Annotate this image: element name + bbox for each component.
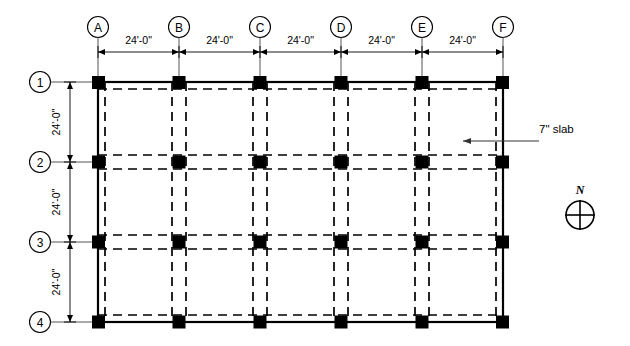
slab-note-label: 7" slab	[539, 123, 574, 135]
dimension-B-C: 24'-0"	[179, 34, 260, 58]
column-grid-bubbles: A B C D E	[88, 17, 514, 83]
dimension-arrow-left-A-B	[98, 49, 105, 55]
column-F1	[496, 76, 509, 89]
column-E1	[416, 76, 429, 89]
dimension-arrow-right-B-C	[253, 49, 260, 55]
dimension-arrow-top-2-3	[67, 162, 73, 169]
dimension-label-D-E: 24'-0"	[368, 34, 395, 46]
dimension-label-1-2: 24'-0"	[50, 108, 62, 135]
column-E3	[416, 236, 429, 249]
column-B1	[173, 76, 186, 89]
dimension-arrow-right-A-B	[172, 49, 179, 55]
dimension-label-E-F: 24'-0"	[449, 34, 476, 46]
grid-bubble-label-3: 3	[37, 236, 44, 250]
column-F2	[496, 156, 509, 169]
dimension-C-D: 24'-0"	[260, 34, 341, 58]
column-D1	[335, 76, 348, 89]
dimension-label-A-B: 24'-0"	[125, 34, 152, 46]
column-C1	[254, 76, 267, 89]
column-A2	[92, 156, 105, 169]
grid-bubble-1[interactable]: 1	[30, 72, 99, 93]
column-D2	[335, 156, 348, 169]
grid-bubble-label-1: 1	[37, 76, 44, 90]
column-C2	[254, 156, 267, 169]
dimension-arrow-right-C-D	[334, 49, 341, 55]
dimension-arrow-top-3-4	[67, 242, 73, 249]
grid-bubble-label-E: E	[418, 21, 426, 35]
column-E2	[416, 156, 429, 169]
dimension-arrow-left-C-D	[260, 49, 267, 55]
grid-bubble-label-B: B	[175, 21, 183, 35]
column-B3	[173, 236, 186, 249]
dimension-label-C-D: 24'-0"	[287, 34, 314, 46]
north-arrow: N	[565, 183, 595, 230]
grid-bubble-label-2: 2	[37, 156, 44, 170]
dimension-arrow-right-D-E	[415, 49, 422, 55]
dimension-arrow-left-E-F	[422, 49, 429, 55]
slab-callout: 7" slab	[463, 123, 574, 144]
slab-perimeter	[98, 82, 503, 322]
grid-bubble-3[interactable]: 3	[30, 232, 99, 253]
grid-bubble-2[interactable]: 2	[30, 152, 99, 173]
plan-canvas: A B C D E	[0, 0, 630, 346]
vertical-dimension-string: 24'-0" 24'-0" 24'-0"	[50, 82, 76, 322]
dimension-3-4: 24'-0"	[50, 242, 76, 322]
column-C4	[254, 316, 267, 329]
column-A4	[92, 316, 105, 329]
column-B4	[173, 316, 186, 329]
dimension-arrow-left-B-C	[179, 49, 186, 55]
dimension-label-3-4: 24'-0"	[50, 268, 62, 295]
dimension-2-3: 24'-0"	[50, 162, 76, 242]
grid-bubble-label-D: D	[337, 21, 346, 35]
column-F4	[496, 316, 509, 329]
dimension-label-B-C: 24'-0"	[206, 34, 233, 46]
dimension-D-E: 24'-0"	[341, 34, 422, 58]
grid-bubble-label-4: 4	[37, 316, 44, 330]
column-D3	[335, 236, 348, 249]
dimension-arrow-left-D-E	[341, 49, 348, 55]
column-C3	[254, 236, 267, 249]
dimension-arrow-bottom-2-3	[67, 235, 73, 242]
dimension-A-B: 24'-0"	[98, 34, 179, 58]
columns	[92, 76, 509, 329]
column-D4	[335, 316, 348, 329]
row-grid-bubbles: 1 2 3 4	[30, 72, 99, 333]
grid-bubble-label-F: F	[499, 21, 506, 35]
framing-plan-drawing: A B C D E	[0, 0, 630, 346]
column-F3	[496, 236, 509, 249]
column-B2	[173, 156, 186, 169]
slab-outline	[98, 82, 503, 322]
column-E4	[416, 316, 429, 329]
grid-bubble-label-C: C	[256, 21, 265, 35]
column-A1	[92, 76, 105, 89]
grid-bubble-label-A: A	[94, 21, 102, 35]
slab-leader-arrowhead	[463, 138, 471, 144]
dimension-arrow-right-E-F	[496, 49, 503, 55]
dimension-E-F: 24'-0"	[422, 34, 503, 58]
column-A3	[92, 236, 105, 249]
dimension-label-2-3: 24'-0"	[50, 188, 62, 215]
dimension-arrow-bottom-1-2	[67, 155, 73, 162]
horizontal-dimension-string: 24'-0" 24'-0" 24'-0"	[98, 34, 503, 58]
north-arrow-label: N	[575, 183, 586, 197]
dimension-arrow-bottom-3-4	[67, 315, 73, 322]
dimension-1-2: 24'-0"	[50, 82, 76, 162]
grid-bubble-4[interactable]: 4	[30, 312, 99, 333]
beam-lines	[98, 82, 503, 322]
dimension-arrow-top-1-2	[67, 82, 73, 89]
